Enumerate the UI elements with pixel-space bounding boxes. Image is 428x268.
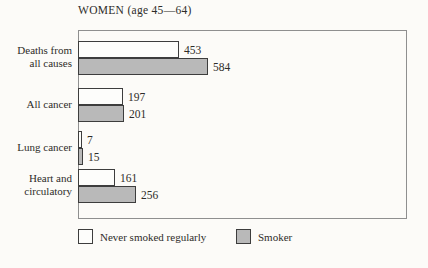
bar-never-smoked [78, 88, 123, 105]
chart-title: WOMEN (age 45—64) [78, 4, 192, 16]
value-label: 584 [213, 61, 230, 73]
category-label: Heart and circulatory [0, 172, 72, 198]
legend-item-never-smoked: Never smoked regularly [78, 229, 206, 244]
bar-never-smoked [78, 169, 115, 186]
value-label: 453 [184, 44, 201, 56]
bar-never-smoked [78, 41, 179, 58]
value-label: 15 [88, 151, 100, 163]
bar-smoker [78, 58, 208, 75]
category-label: All cancer [0, 98, 72, 111]
legend-item-smoker: Smoker [236, 229, 292, 244]
value-label: 197 [128, 91, 145, 103]
value-label: 201 [129, 108, 146, 120]
category-label: Deaths from all causes [0, 44, 72, 70]
value-label: 256 [141, 189, 158, 201]
smoker-swatch-icon [236, 229, 251, 244]
bar-smoker [78, 105, 124, 122]
bar-smoker [78, 186, 136, 203]
legend: Never smoked regularly Smoker [0, 229, 428, 251]
category-label: Lung cancer [0, 141, 72, 154]
bar-smoker [78, 148, 83, 165]
never-smoked-swatch-icon [78, 229, 93, 244]
legend-label-never-smoked: Never smoked regularly [100, 231, 206, 243]
smoking-mortality-bar-chart: WOMEN (age 45—64) 453584197201715161256 … [0, 0, 428, 268]
bar-never-smoked [78, 131, 82, 148]
legend-label-smoker: Smoker [258, 231, 292, 243]
value-label: 7 [87, 134, 93, 146]
value-label: 161 [120, 172, 137, 184]
plot-area: 453584197201715161256 [78, 30, 407, 219]
